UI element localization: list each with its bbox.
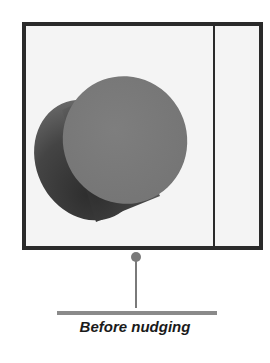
- figure-caption: Before nudging: [0, 318, 270, 335]
- anchor-stem: [135, 258, 137, 308]
- baseline-bar: [57, 311, 217, 315]
- cylinder-object: [0, 0, 270, 363]
